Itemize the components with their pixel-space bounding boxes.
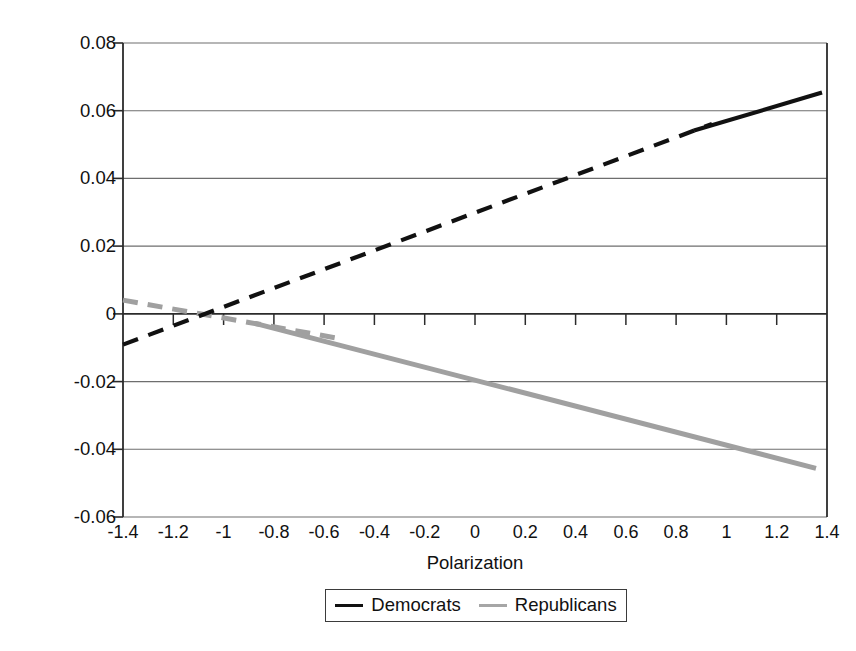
- legend-label-democrats: Democrats: [371, 596, 460, 615]
- x-tick-label: -0.4: [359, 522, 390, 543]
- x-tick-label: 0.8: [664, 522, 689, 543]
- x-tick-label: -0.6: [309, 522, 340, 543]
- x-axis-title: Polarization: [123, 552, 827, 574]
- y-tick-label: -0.06: [36, 506, 116, 528]
- x-tick-label: -0.8: [258, 522, 289, 543]
- legend-line-republicans-icon: [479, 604, 507, 607]
- x-tick-label: 0.6: [613, 522, 638, 543]
- x-tick-label: 0.2: [513, 522, 538, 543]
- legend-line-democrats-icon: [335, 604, 363, 607]
- y-tick-label: 0.06: [36, 100, 116, 122]
- x-tick-label: -1.4: [107, 522, 138, 543]
- y-tick-labels: 0.08 0.06 0.04 0.02 0 -0.02 -0.04 -0.06: [30, 0, 116, 651]
- x-tick-label: 0.4: [563, 522, 588, 543]
- x-tick-label: 1.2: [764, 522, 789, 543]
- y-tick-label: 0.08: [36, 32, 116, 54]
- legend-label-republicans: Republicans: [515, 596, 617, 615]
- y-tick-label: -0.04: [36, 438, 116, 460]
- x-tick-label: 0: [470, 522, 480, 543]
- x-tick-label: -0.2: [409, 522, 440, 543]
- chart-legend: Democrats Republicans: [325, 589, 627, 622]
- x-tick-label: -1: [216, 522, 232, 543]
- y-tick-label: 0.04: [36, 167, 116, 189]
- y-tick-label: 0.02: [36, 235, 116, 257]
- y-tick-label: -0.02: [36, 371, 116, 393]
- x-tick-label: -1.2: [158, 522, 189, 543]
- x-tick-label: 1.4: [814, 522, 839, 543]
- legend-item-republicans: Republicans: [470, 596, 626, 615]
- y-tick-label: 0: [36, 303, 116, 325]
- x-tick-label: 1: [721, 522, 731, 543]
- legend-item-democrats: Democrats: [326, 596, 469, 615]
